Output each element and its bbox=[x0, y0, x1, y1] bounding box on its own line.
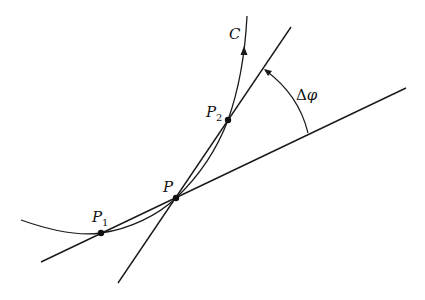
point-p1 bbox=[98, 230, 104, 236]
label-curve-c: C bbox=[229, 25, 241, 43]
label-angle-delta-phi: Δφ bbox=[296, 86, 318, 104]
label-p2: P2 bbox=[205, 103, 222, 123]
curve-direction-arrow-icon bbox=[241, 46, 248, 55]
point-p bbox=[173, 195, 179, 201]
point-p2 bbox=[225, 117, 231, 123]
diagram-canvas: C P2 P P1 Δφ bbox=[0, 0, 425, 300]
label-p: P bbox=[162, 178, 174, 196]
curve-c bbox=[21, 16, 247, 234]
label-p1: P1 bbox=[91, 208, 108, 228]
secant-line-p1-p bbox=[41, 88, 406, 262]
